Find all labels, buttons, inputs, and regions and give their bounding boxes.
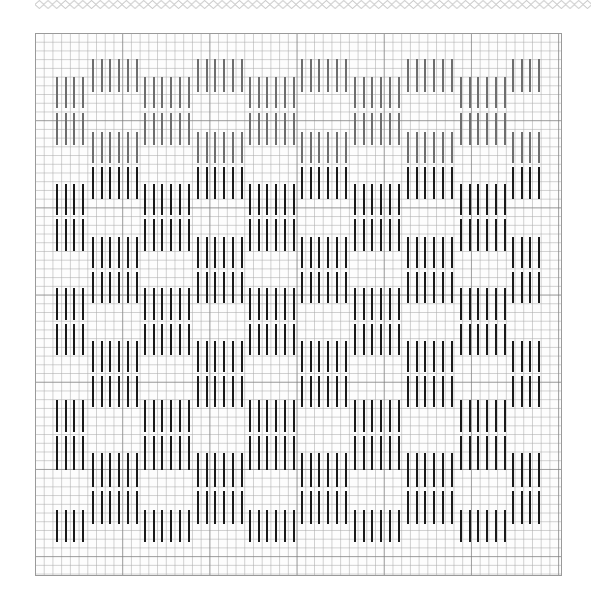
stitch-bar: [389, 400, 391, 432]
stitch-bar: [82, 184, 84, 215]
stitch-bar: [512, 167, 514, 199]
stitch-bar: [363, 436, 365, 470]
stitch-bar: [249, 219, 251, 251]
stitch-bar: [336, 167, 338, 199]
stitch-bar: [293, 436, 295, 470]
stitch-bar: [92, 376, 94, 407]
stitch-bar: [433, 59, 435, 92]
stitch-bar: [424, 167, 426, 199]
stitch-bar: [275, 113, 277, 145]
stitch-bar: [521, 237, 523, 268]
stitch-bar: [179, 510, 181, 542]
stitch-bar: [275, 324, 277, 355]
stitch-bar: [529, 341, 531, 372]
stitch-bar: [301, 453, 303, 487]
stitch-bar: [293, 77, 295, 108]
stitch-bar: [504, 288, 506, 320]
stitch-bar: [293, 324, 295, 355]
stitch-bar: [206, 272, 208, 303]
stitch-bar: [161, 113, 163, 145]
stitch-bar: [477, 113, 479, 145]
stitch-bar: [179, 436, 181, 470]
stitch-bar: [275, 400, 277, 432]
stitch-bar: [371, 510, 373, 542]
stitch-bar: [327, 341, 329, 372]
stitch-bar: [486, 436, 488, 470]
stitch-bar: [214, 491, 216, 524]
stitch-bar: [529, 376, 531, 407]
stitch-bar: [73, 324, 75, 355]
stitch-bar: [127, 132, 129, 163]
stitch-bar: [275, 288, 277, 320]
stitch-bar: [451, 272, 453, 303]
stitch-bar: [521, 376, 523, 407]
stitch-bar: [144, 184, 146, 215]
stitch-bar: [380, 77, 382, 108]
stitch-bar: [153, 77, 155, 108]
stitch-bar: [258, 113, 260, 145]
stitch-bar: [109, 167, 111, 199]
stitch-bar: [336, 491, 338, 524]
stitch-bar: [293, 288, 295, 320]
stitch-bar: [284, 510, 286, 542]
stitch-bar: [416, 491, 418, 524]
stitch-bar: [495, 113, 497, 145]
stitch-bar: [258, 288, 260, 320]
stitch-bar: [363, 77, 365, 108]
stitch-bar: [398, 219, 400, 251]
stitch-bar: [284, 219, 286, 251]
stitch-bar: [407, 272, 409, 303]
stitch-bar: [136, 376, 138, 407]
stitch-bar: [301, 237, 303, 268]
stitch-bar: [486, 288, 488, 320]
stitch-bar: [538, 132, 540, 163]
stitch-bar: [460, 77, 462, 108]
stitch-bar: [284, 288, 286, 320]
stitch-bar: [407, 491, 409, 524]
stitch-bar: [170, 400, 172, 432]
stitch-bar: [327, 491, 329, 524]
stitch-bar: [136, 453, 138, 487]
stitch-bar: [73, 113, 75, 145]
stitch-bar: [266, 324, 268, 355]
stitch-bar: [442, 341, 444, 372]
stitch-bar: [214, 376, 216, 407]
stitch-bar: [495, 436, 497, 470]
stitch-bar: [153, 436, 155, 470]
stitch-bar: [223, 272, 225, 303]
stitch-bar: [363, 510, 365, 542]
stitch-bar: [512, 453, 514, 487]
stitch-bar: [188, 436, 190, 470]
stitch-bar: [389, 113, 391, 145]
stitch-bar: [266, 77, 268, 108]
stitch-bar: [380, 219, 382, 251]
stitch-bar: [258, 219, 260, 251]
stitch-bar: [197, 341, 199, 372]
stitch-bar: [197, 59, 199, 92]
stitch-bar: [127, 59, 129, 92]
stitch-bar: [266, 510, 268, 542]
stitch-bar: [310, 237, 312, 268]
stitch-bar: [424, 491, 426, 524]
stitch-bar: [101, 59, 103, 92]
stitch-bar: [241, 272, 243, 303]
stitch-bar: [354, 219, 356, 251]
stitch-bar: [214, 167, 216, 199]
stitch-bar: [118, 59, 120, 92]
stitch-bar: [153, 219, 155, 251]
stitch-bar: [266, 184, 268, 215]
stitch-bar: [249, 113, 251, 145]
stitch-bar: [407, 59, 409, 92]
stitch-bar: [301, 341, 303, 372]
stitch-bar: [232, 453, 234, 487]
stitch-bar: [92, 341, 94, 372]
stitch-bar: [416, 167, 418, 199]
stitch-bar: [101, 167, 103, 199]
stitch-bar: [82, 324, 84, 355]
stitch-bar: [371, 288, 373, 320]
stitch-bar: [363, 219, 365, 251]
stitch-bar: [512, 59, 514, 92]
stitch-bar: [460, 219, 462, 251]
stitch-bar: [284, 436, 286, 470]
stitch-bar: [136, 341, 138, 372]
